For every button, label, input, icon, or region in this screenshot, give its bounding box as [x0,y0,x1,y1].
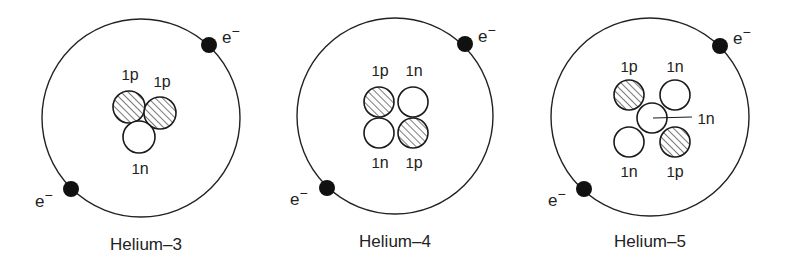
nucleon-label: 1n [371,154,388,171]
electron-label: e− [478,22,496,46]
atom-caption: Helium–3 [110,235,182,254]
neutron-particle [660,80,690,110]
electron [63,181,79,197]
proton-particle [398,118,428,148]
electron-label: e− [222,23,240,47]
nucleon-label: 1p [666,163,683,180]
proton-particle [113,91,145,123]
atoms-layer: 1p1p1ne−e−Helium–31p1n1n1pe−e−Helium–41n… [35,18,751,254]
proton-particle [614,80,644,110]
diagram-canvas: 1p1p1ne−e−Helium–31p1n1n1pe−e−Helium–41n… [0,0,786,268]
electron-label: e− [35,187,53,211]
nucleon-label: 1p [121,66,138,83]
nucleon-label: 1n [697,110,714,127]
nucleon-label: 1p [153,73,170,90]
electron [201,37,217,53]
proton-particle [364,87,394,117]
neutron-particle [398,87,428,117]
neutron-particle [614,127,644,157]
neutron-particle [123,121,155,153]
electron [712,38,728,54]
nucleon-label: 1n [131,160,148,177]
nucleon-label: 1n [666,58,683,75]
atom-helium-4: 1p1n1n1pe−e−Helium–4 [290,18,496,251]
atom-helium-3: 1p1p1ne−e−Helium–3 [35,19,240,254]
electron [319,180,335,196]
electron-label: e− [548,186,566,210]
electron-label: e− [733,24,751,48]
proton-particle [660,127,690,157]
neutron-particle [364,118,394,148]
nucleon-label: 1p [620,58,637,75]
nucleon-label: 1n [620,163,637,180]
electron [457,36,473,52]
electron-label: e− [290,185,308,209]
nucleon-label: 1n [405,62,422,79]
nucleon-label: 1p [405,154,422,171]
helium-isotopes-diagram: 1p1p1ne−e−Helium–31p1n1n1pe−e−Helium–41n… [0,0,786,268]
electron [576,181,592,197]
atom-caption: Helium–5 [614,232,686,251]
atom-caption: Helium–4 [359,232,431,251]
nucleon-label: 1p [371,62,388,79]
atom-helium-5: 1n1p1n1n1pe−e−Helium–5 [548,18,751,251]
